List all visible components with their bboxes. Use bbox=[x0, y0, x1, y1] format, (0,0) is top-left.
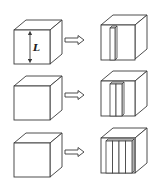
transform-arrow-icon bbox=[65, 36, 84, 45]
row-1: L bbox=[14, 15, 147, 64]
source-cube-2 bbox=[14, 76, 62, 120]
diagram-canvas: L bbox=[0, 0, 162, 187]
result-cube-2 bbox=[101, 71, 147, 116]
result-cube-1 bbox=[101, 15, 147, 60]
source-cube-1: L bbox=[14, 20, 62, 64]
dimension-label: L bbox=[32, 42, 40, 53]
row-2 bbox=[14, 71, 147, 120]
transform-arrow-icon bbox=[65, 91, 84, 100]
source-cube-3 bbox=[14, 133, 62, 177]
transform-arrow-icon bbox=[65, 148, 84, 157]
result-cube-3 bbox=[101, 128, 147, 173]
row-3 bbox=[14, 128, 147, 177]
